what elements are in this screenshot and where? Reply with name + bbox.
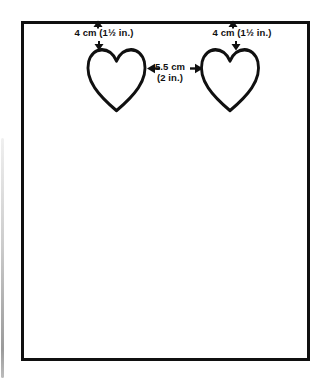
measurement-label-right-height: 4 cm (1½ in.) xyxy=(209,27,275,38)
gap-value-metric: 5.5 cm xyxy=(145,61,195,72)
gap-value-imperial: (2 in.) xyxy=(145,72,195,83)
measurement-label-gap: 5.5 cm (2 in.) xyxy=(145,61,195,83)
diagram-linework xyxy=(0,0,325,378)
diagram-canvas: 4 cm (1½ in.) 4 cm (1½ in.) 5.5 cm (2 in… xyxy=(0,0,325,378)
heart-outline-left xyxy=(88,50,145,111)
measurement-label-left-height: 4 cm (1½ in.) xyxy=(71,27,137,38)
heart-outline-right xyxy=(201,50,258,111)
